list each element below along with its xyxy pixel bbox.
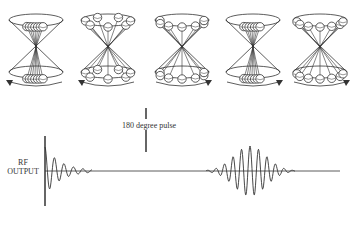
cone-4: [226, 14, 283, 86]
spin-sphere: [39, 75, 47, 83]
spin-sphere: [104, 75, 112, 83]
spin-sphere: [191, 22, 199, 30]
rf-label-line1: RF: [4, 158, 42, 167]
spin-vector: [160, 47, 182, 73]
spin-sphere: [256, 75, 264, 83]
spin-vector: [108, 18, 118, 47]
spin-sphere: [339, 70, 347, 78]
spin-sphere: [200, 16, 208, 24]
arrowhead-icon: [205, 80, 212, 86]
spin-vector: [182, 47, 195, 78]
spin-sphere: [304, 22, 312, 30]
spin-sphere: [164, 74, 172, 82]
spin-sphere: [328, 74, 336, 82]
spin-sphere: [114, 65, 122, 73]
spin-sphere: [296, 20, 304, 28]
spin-sphere: [164, 22, 172, 30]
pulse-label: 180 degree pulse: [114, 121, 184, 130]
spin-sphere: [256, 23, 264, 31]
spin-sphere: [316, 23, 324, 31]
spin-sphere: [114, 13, 122, 21]
spin-sphere: [86, 21, 94, 29]
spin-echo-diagram: RF OUTPUT 180 degree pulse: [0, 0, 354, 228]
spin-sphere: [86, 73, 94, 81]
spin-vector: [300, 47, 320, 76]
spin-vector: [244, 47, 253, 79]
spin-sphere: [93, 65, 101, 73]
spin-sphere: [178, 23, 186, 31]
spin-sphere: [339, 18, 347, 26]
spin-sphere: [156, 71, 164, 79]
arrowhead-icon: [78, 80, 85, 86]
spin-vector: [169, 47, 182, 78]
spin-vector: [182, 47, 204, 73]
spin-sphere: [191, 74, 199, 82]
spin-vector: [297, 47, 320, 74]
spin-vector: [320, 47, 340, 76]
spin-sphere: [316, 75, 324, 83]
spin-sphere: [39, 23, 47, 31]
spin-sphere: [296, 72, 304, 80]
echo-signal: [206, 146, 295, 195]
spin-sphere: [126, 69, 134, 77]
arrowhead-icon: [6, 80, 13, 86]
spin-vector: [98, 18, 108, 47]
cone-1: [6, 14, 63, 86]
spin-vector: [320, 47, 343, 74]
rf-output-label: RF OUTPUT: [4, 158, 42, 176]
spin-sphere: [93, 13, 101, 21]
spin-vector: [27, 47, 36, 79]
spin-sphere: [304, 74, 312, 82]
arrowhead-icon: [276, 80, 283, 86]
cone-5: [293, 14, 350, 86]
arrowhead-icon: [343, 80, 350, 86]
spin-sphere: [328, 22, 336, 30]
cone-2: [78, 13, 135, 86]
fid-signal: [45, 147, 92, 189]
spin-sphere: [156, 19, 164, 27]
diagram-canvas: [0, 0, 354, 228]
spin-sphere: [200, 68, 208, 76]
spin-sphere: [104, 23, 112, 31]
spin-sphere: [178, 75, 186, 83]
spin-sphere: [126, 17, 134, 25]
cone-3: [155, 14, 212, 86]
rf-label-line2: OUTPUT: [4, 167, 42, 176]
